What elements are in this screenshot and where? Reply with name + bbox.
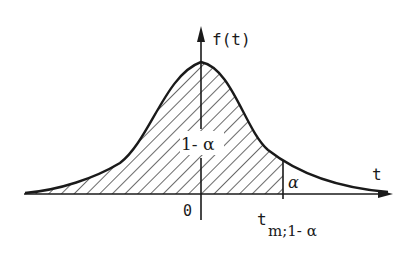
x-axis-label: t — [372, 165, 382, 184]
diagram-canvas: f(t) t 0 1- α α t m;1- α — [0, 0, 411, 258]
origin-label: 0 — [183, 202, 192, 220]
y-axis-arrow-icon — [197, 26, 205, 42]
tail-area-label: α — [288, 173, 299, 192]
shaded-area-one-minus-alpha — [20, 55, 290, 200]
critical-value-base: t — [257, 210, 267, 229]
y-axis-label: f(t) — [212, 30, 251, 49]
t-distribution-diagram: f(t) t 0 1- α α t m;1- α — [0, 0, 411, 258]
center-area-label: 1- α — [181, 134, 215, 154]
critical-value-subscript: m;1- α — [268, 222, 317, 240]
critical-value-label: t m;1- α — [257, 210, 317, 240]
